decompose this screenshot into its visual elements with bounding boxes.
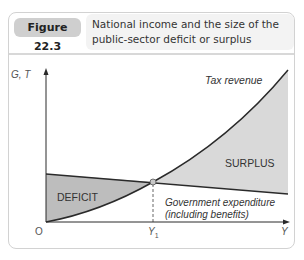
tax-revenue-label: Tax revenue (205, 74, 262, 86)
x-axis-arrow (283, 220, 290, 225)
deficit-label: DEFICIT (57, 191, 98, 203)
surplus-region (153, 70, 288, 194)
y-axis-label: G, T (11, 69, 30, 80)
surplus-label: SURPLUS (225, 157, 275, 169)
y-axis-arrow (44, 68, 49, 75)
y1-tick-label: Y1 (148, 226, 159, 239)
government-expenditure-sublabel: (including benefits) (165, 209, 249, 220)
government-expenditure-label: Government expenditure (165, 197, 275, 208)
x-axis-label: Y (281, 226, 288, 237)
diagram-plot (0, 0, 304, 260)
origin-label: O (35, 226, 43, 237)
intersection-point (150, 179, 156, 185)
